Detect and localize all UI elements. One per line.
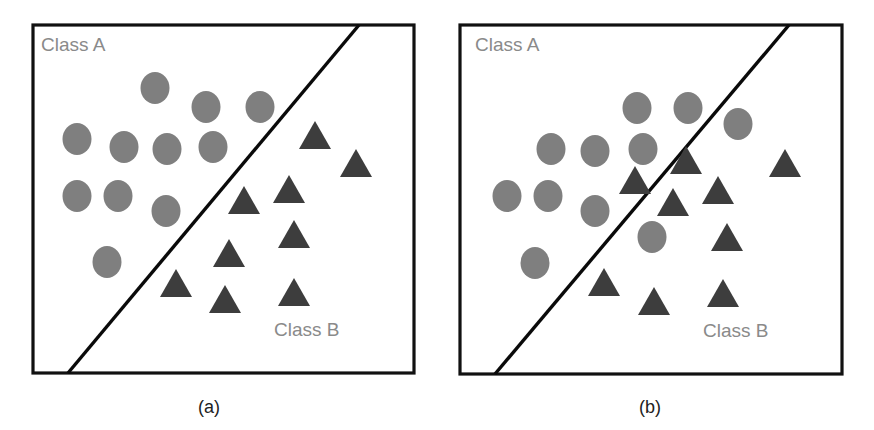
class-b-triangle-marker <box>273 175 305 203</box>
class-a-circle-marker <box>581 195 610 227</box>
class-b-triangle-marker <box>228 186 260 214</box>
class-b-triangle-marker <box>588 268 620 296</box>
class-b-triangle-marker <box>707 279 739 307</box>
class-a-circle-marker <box>581 135 610 167</box>
panel-a-class-a-circles <box>63 72 275 278</box>
class-b-triangle-marker <box>702 176 734 204</box>
panel-a-class-b-triangles <box>160 121 372 313</box>
classification-figure: Class A Class B (a) Class A Class B (b) <box>0 0 874 430</box>
class-a-circle-marker <box>521 247 550 279</box>
class-a-circle-marker <box>674 92 703 124</box>
class-b-triangle-marker <box>213 239 245 267</box>
panel-b-not-linearly-separable: Class A Class B (b) <box>460 25 842 417</box>
panel-a-class-b-label: Class B <box>274 319 339 340</box>
class-b-triangle-marker <box>278 220 310 248</box>
class-b-triangle-marker <box>278 278 310 306</box>
class-b-triangle-marker <box>769 149 801 177</box>
class-b-triangle-marker <box>340 149 372 177</box>
class-a-circle-marker <box>534 180 563 212</box>
class-a-circle-marker <box>192 91 221 123</box>
class-a-circle-marker <box>199 131 228 163</box>
class-a-circle-marker <box>638 221 667 253</box>
panel-b-class-b-label: Class B <box>703 320 768 341</box>
class-b-triangle-marker <box>711 223 743 251</box>
class-a-circle-marker <box>246 91 275 123</box>
panel-a-caption: (a) <box>198 397 220 417</box>
class-a-circle-marker <box>623 92 652 124</box>
class-a-circle-marker <box>63 123 92 155</box>
class-a-circle-marker <box>141 72 170 104</box>
panel-b-caption: (b) <box>639 397 661 417</box>
class-a-circle-marker <box>93 246 122 278</box>
class-a-circle-marker <box>153 133 182 165</box>
class-a-circle-marker <box>63 180 92 212</box>
class-a-circle-marker <box>493 180 522 212</box>
class-a-circle-marker <box>724 108 753 140</box>
class-a-circle-marker <box>104 180 133 212</box>
class-a-circle-marker <box>629 133 658 165</box>
class-a-circle-marker <box>110 131 139 163</box>
class-b-triangle-marker <box>299 121 331 149</box>
class-a-circle-marker <box>152 195 181 227</box>
class-b-triangle-marker <box>657 188 689 216</box>
class-b-triangle-marker <box>638 287 670 315</box>
panel-b-class-b-triangles <box>588 146 801 315</box>
class-b-triangle-marker <box>160 269 192 297</box>
panel-a-class-a-label: Class A <box>41 34 106 55</box>
class-b-triangle-marker <box>209 285 241 313</box>
class-a-circle-marker <box>537 133 566 165</box>
panel-a-linearly-separable: Class A Class B (a) <box>33 25 414 417</box>
panel-b-class-a-label: Class A <box>475 34 540 55</box>
class-b-triangle-marker <box>619 166 651 194</box>
